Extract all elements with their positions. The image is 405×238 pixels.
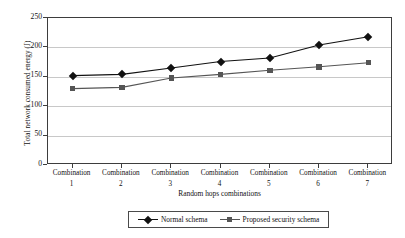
x-tick-mark [170,164,171,168]
x-tick-mark [72,164,73,168]
series-line-0 [73,37,369,76]
x-tick-label-name: Combination [349,169,387,177]
data-point-1-3 [218,72,224,78]
x-tick-mark [220,164,221,168]
x-tick-label-name: Combination [250,169,288,177]
x-tick-label-name: Combination [102,169,140,177]
chart-legend: Normal schemaProposed security schema [128,211,329,228]
data-point-1-6 [366,60,372,66]
x-axis-title: Random hops combinations [47,189,392,198]
x-tick-label-name: Combination [201,169,239,177]
diamond-marker-icon [138,215,158,224]
data-point-1-4 [267,68,273,74]
square-marker-icon [220,215,240,224]
legend-entry-1: Proposed security schema [220,215,320,224]
legend-label: Proposed security schema [243,215,320,224]
y-tick-label: 100 [12,101,42,109]
x-tick-mark [367,164,368,168]
x-tick-label-number: 7 [338,179,396,190]
plot-area [47,17,392,164]
x-tick-label-name: Combination [53,169,91,177]
x-tick-label-name: Combination [151,169,189,177]
y-tick-label: 50 [12,130,42,138]
data-point-1-2 [169,75,175,81]
x-tick-mark [269,164,270,168]
y-tick-mark [43,164,47,165]
x-tick-mark [121,164,122,168]
data-point-1-5 [316,64,322,70]
y-tick-label: 150 [12,71,42,79]
x-tick-label-7: Combination7 [338,168,396,189]
chart-figure: Total network consumed energy (J) 050100… [0,0,405,238]
legend-entry-0: Normal schema [138,215,208,224]
y-tick-label: 250 [12,13,42,21]
legend-label: Normal schema [161,215,208,224]
y-tick-label: 0 [12,160,42,168]
data-point-1-0 [70,86,76,92]
series-lines [48,18,393,165]
data-point-1-1 [119,85,125,91]
x-tick-label-name: Combination [299,169,337,177]
y-tick-label: 200 [12,42,42,50]
x-tick-mark [318,164,319,168]
